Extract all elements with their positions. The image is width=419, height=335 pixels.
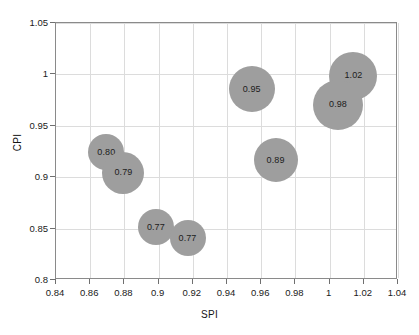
- y-tick-label: 0.85: [6, 222, 48, 233]
- x-tick-label: 1: [326, 287, 331, 298]
- y-tick-mark: [50, 73, 55, 74]
- x-tick-label: 0.98: [285, 287, 304, 298]
- data-bubble-label: 0.77: [179, 234, 197, 243]
- x-tick-label: 0.88: [114, 287, 133, 298]
- data-bubble: 0.95: [229, 66, 275, 112]
- x-tick-label: 0.94: [217, 287, 236, 298]
- y-tick-label: 1.05: [6, 17, 48, 28]
- data-bubble: 0.89: [254, 138, 298, 182]
- y-tick-label: 0.8: [6, 274, 48, 285]
- y-tick-mark: [50, 176, 55, 177]
- x-tick-label: 1.02: [354, 287, 373, 298]
- gridline-horizontal: [56, 23, 396, 24]
- gridline-horizontal: [56, 229, 396, 230]
- x-tick-mark: [123, 279, 124, 284]
- y-tick-label: 0.95: [6, 119, 48, 130]
- y-tick-label: 0.9: [6, 171, 48, 182]
- x-tick-mark: [260, 279, 261, 284]
- x-tick-mark: [363, 279, 364, 284]
- x-axis-title: SPI: [0, 309, 419, 320]
- x-tick-mark: [55, 279, 56, 284]
- gridline-vertical: [227, 23, 228, 278]
- data-bubble-label: 0.95: [243, 85, 261, 94]
- x-tick-mark: [89, 279, 90, 284]
- x-tick-label: 0.96: [251, 287, 270, 298]
- x-tick-mark: [158, 279, 159, 284]
- gridline-vertical: [330, 23, 331, 278]
- y-tick-mark: [50, 125, 55, 126]
- gridline-vertical: [124, 23, 125, 278]
- data-bubble: 0.79: [102, 152, 144, 194]
- x-tick-mark: [226, 279, 227, 284]
- x-tick-mark: [192, 279, 193, 284]
- y-tick-mark: [50, 22, 55, 23]
- x-tick-mark: [329, 279, 330, 284]
- x-tick-label: 0.9: [151, 287, 164, 298]
- data-bubble: 0.77: [170, 220, 206, 256]
- x-tick-label: 0.84: [46, 287, 65, 298]
- x-tick-label: 0.92: [183, 287, 202, 298]
- x-tick-label: 1.04: [388, 287, 407, 298]
- y-tick-label: 1: [6, 68, 48, 79]
- data-bubble-label: 0.98: [329, 100, 347, 109]
- bubble-chart: CPI SPI 0.840.860.880.90.920.940.960.981…: [0, 0, 419, 335]
- data-bubble-label: 0.79: [114, 168, 132, 177]
- data-bubble: 0.77: [138, 209, 174, 245]
- data-bubble-label: 1.02: [344, 71, 362, 80]
- data-bubble-label: 0.89: [267, 156, 285, 165]
- x-tick-mark: [294, 279, 295, 284]
- y-tick-mark: [50, 228, 55, 229]
- x-tick-label: 0.86: [80, 287, 99, 298]
- data-bubble-label: 0.77: [147, 223, 165, 232]
- y-tick-mark: [50, 279, 55, 280]
- data-bubble: 0.98: [313, 80, 363, 130]
- x-tick-mark: [397, 279, 398, 284]
- gridline-vertical: [398, 23, 399, 278]
